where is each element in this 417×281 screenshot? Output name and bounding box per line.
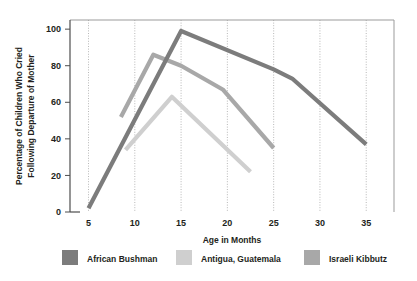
y-tick-label-80: 80 <box>51 61 61 71</box>
legend-label-african-bushman: African Bushman <box>87 254 157 264</box>
x-tick-label-10: 10 <box>130 218 140 228</box>
y-tick-label-20: 20 <box>51 171 61 181</box>
x-tick-label-20: 20 <box>222 218 232 228</box>
y-tick-label-40: 40 <box>51 134 61 144</box>
chart-container: 020406080100 5101520253035 Percentage of… <box>0 0 417 281</box>
legend-swatch-antigua-guatemala <box>176 250 192 265</box>
line-chart: 020406080100 5101520253035 Percentage of… <box>0 0 417 281</box>
y-tick-label-100: 100 <box>46 24 61 34</box>
legend-label-israeli-kibbutz: Israeli Kibbutz <box>329 254 387 264</box>
y-axis-title-line-2: Following Departure of Mother <box>26 54 36 178</box>
y-axis-title-line-1: Percentage of Children Who Cried <box>14 47 24 185</box>
legend-label-antigua-guatemala: Antigua, Guatemala <box>201 254 281 264</box>
y-tick-label-60: 60 <box>51 97 61 107</box>
y-tick-label-0: 0 <box>56 207 61 217</box>
x-tick-label-5: 5 <box>86 218 91 228</box>
x-tick-label-30: 30 <box>315 218 325 228</box>
x-tick-label-35: 35 <box>361 218 371 228</box>
legend-swatch-african-bushman <box>62 250 78 265</box>
x-axis-title: Age in Months <box>203 235 262 245</box>
x-tick-label-15: 15 <box>176 218 186 228</box>
legend-swatch-israeli-kibbutz <box>304 250 320 265</box>
x-tick-label-25: 25 <box>269 218 279 228</box>
